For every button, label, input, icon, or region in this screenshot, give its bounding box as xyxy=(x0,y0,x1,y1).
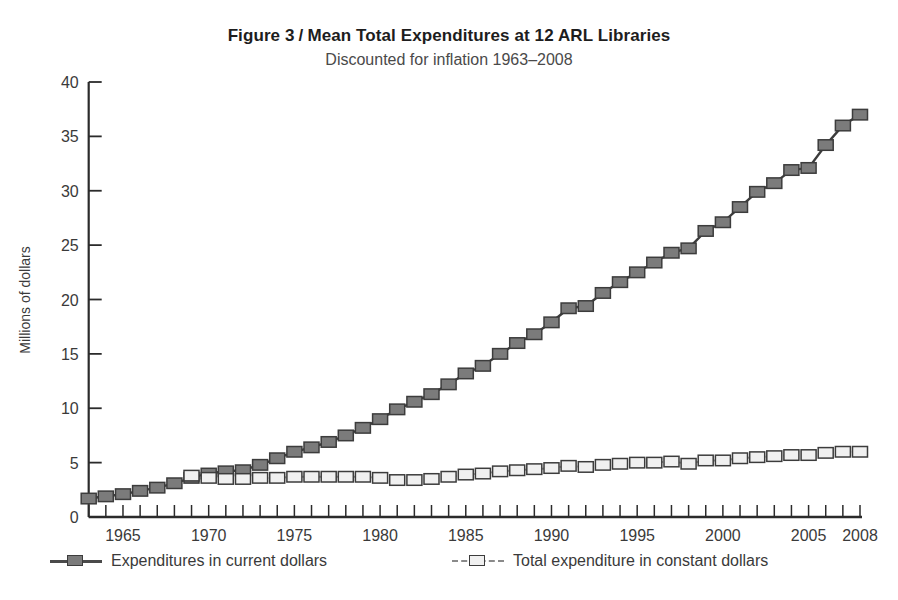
data-point-marker xyxy=(184,470,199,481)
data-point-marker xyxy=(493,466,508,477)
legend-marker-filled-square xyxy=(67,555,83,566)
data-point-marker xyxy=(853,447,868,458)
data-point-marker xyxy=(201,473,216,484)
data-point-marker xyxy=(750,452,765,463)
data-point-marker xyxy=(510,338,525,349)
data-point-marker xyxy=(236,474,251,485)
data-point-marker xyxy=(733,202,748,213)
plot-area: 0510152025303540Millions of dollars19651… xyxy=(0,0,898,552)
data-point-marker xyxy=(390,475,405,486)
x-axis-tick-label: 1995 xyxy=(619,527,655,544)
x-axis-tick-label: 1985 xyxy=(448,527,484,544)
data-point-marker xyxy=(475,468,490,479)
data-point-marker xyxy=(715,455,730,466)
data-point-marker xyxy=(664,248,679,259)
data-point-marker xyxy=(835,447,850,458)
data-point-marker xyxy=(733,453,748,464)
legend-item-current-dollars: Expenditures in current dollars xyxy=(50,552,327,570)
x-axis-tick-label: 1970 xyxy=(191,527,227,544)
legend-key-constant-dollars xyxy=(452,553,504,569)
data-point-marker xyxy=(647,457,662,468)
data-point-marker xyxy=(853,109,868,120)
data-point-marker xyxy=(441,472,456,483)
y-axis-tick-label: 10 xyxy=(61,400,79,417)
data-point-marker xyxy=(544,317,559,328)
data-point-marker xyxy=(595,460,610,471)
data-point-marker xyxy=(407,397,422,408)
data-point-marker xyxy=(835,120,850,131)
data-point-marker xyxy=(784,165,799,176)
data-point-marker xyxy=(338,472,353,483)
data-point-marker xyxy=(373,473,388,484)
data-point-marker xyxy=(373,414,388,425)
data-point-marker xyxy=(801,450,816,461)
data-point-marker xyxy=(424,389,439,400)
data-point-marker xyxy=(116,489,131,500)
data-point-marker xyxy=(681,459,696,470)
data-point-marker xyxy=(698,455,713,466)
data-point-marker xyxy=(98,491,113,502)
y-axis-tick-label: 30 xyxy=(61,183,79,200)
legend-label-current-dollars: Expenditures in current dollars xyxy=(111,552,327,570)
data-point-marker xyxy=(321,472,336,483)
data-point-marker xyxy=(355,423,370,434)
data-point-marker xyxy=(458,469,473,480)
y-axis-tick-label: 0 xyxy=(70,509,79,526)
data-point-marker xyxy=(390,404,405,415)
series-line-1 xyxy=(89,115,860,499)
figure-3-chart: Figure 3/Mean Total Expenditures at 12 A… xyxy=(0,0,898,600)
data-point-marker xyxy=(270,473,285,484)
data-point-marker xyxy=(510,465,525,476)
data-point-marker xyxy=(715,217,730,228)
data-point-marker xyxy=(750,187,765,198)
data-point-marker xyxy=(544,463,559,474)
data-point-marker xyxy=(630,457,645,468)
chart-legend: Expenditures in current dollars Total ex… xyxy=(0,552,898,592)
data-point-marker xyxy=(561,461,576,472)
data-point-marker xyxy=(441,379,456,390)
data-point-marker xyxy=(698,226,713,237)
data-point-marker xyxy=(167,478,182,489)
legend-marker-open-square xyxy=(469,555,485,566)
data-point-marker xyxy=(647,257,662,268)
data-point-marker xyxy=(253,460,268,471)
data-point-marker xyxy=(150,482,165,493)
data-point-marker xyxy=(613,459,628,470)
x-axis-tick-label: 2000 xyxy=(705,527,741,544)
y-axis-tick-label: 5 xyxy=(70,455,79,472)
data-point-marker xyxy=(133,486,148,497)
data-point-marker xyxy=(818,140,833,151)
data-point-marker xyxy=(304,472,319,483)
data-point-marker xyxy=(527,329,542,340)
data-point-marker xyxy=(784,450,799,461)
data-point-marker xyxy=(407,475,422,486)
data-point-marker xyxy=(613,277,628,288)
data-point-marker xyxy=(818,448,833,459)
x-axis-tick-label: 1975 xyxy=(277,527,313,544)
data-point-marker xyxy=(270,453,285,464)
data-point-marker xyxy=(218,474,233,485)
data-point-marker xyxy=(287,447,302,458)
y-axis-title: Millions of dollars xyxy=(17,246,33,353)
data-point-marker xyxy=(578,462,593,473)
data-point-marker xyxy=(81,493,96,504)
x-axis-tick-label: 1980 xyxy=(362,527,398,544)
x-axis-tick-label: 2005 xyxy=(791,527,827,544)
data-point-marker xyxy=(493,349,508,360)
y-axis-tick-label: 40 xyxy=(61,74,79,91)
legend-item-constant-dollars: Total expenditure in constant dollars xyxy=(452,552,768,570)
data-point-marker xyxy=(458,368,473,379)
data-point-marker xyxy=(304,442,319,453)
data-point-marker xyxy=(527,464,542,475)
y-axis-tick-label: 20 xyxy=(61,292,79,309)
data-point-marker xyxy=(578,301,593,312)
legend-label-constant-dollars: Total expenditure in constant dollars xyxy=(513,552,768,570)
y-axis-tick-label: 35 xyxy=(61,128,79,145)
data-point-marker xyxy=(767,178,782,189)
data-point-marker xyxy=(253,473,268,484)
data-point-marker xyxy=(475,361,490,372)
data-point-marker xyxy=(767,451,782,462)
x-axis-tick-label: 2008 xyxy=(842,527,878,544)
x-axis-tick-label: 1990 xyxy=(534,527,570,544)
legend-key-current-dollars xyxy=(50,553,102,569)
